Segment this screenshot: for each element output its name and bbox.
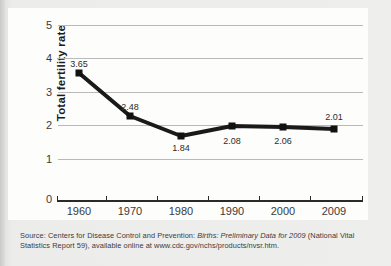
data-label-2000: 2.06 [263, 136, 303, 146]
x-tick-1960: 1960 [56, 205, 102, 217]
x-tick-1990: 1990 [209, 205, 255, 217]
data-point-1990 [229, 123, 236, 130]
x-tickmark-4 [259, 196, 260, 201]
x-tick-1980: 1980 [158, 205, 204, 217]
page-left-edge [0, 0, 5, 266]
data-label-1990: 2.08 [212, 136, 252, 146]
caption-line1-prefix: Source: Centers for Disease Control and … [20, 231, 197, 240]
x-tick-2009: 2009 [311, 205, 357, 217]
data-point-1970 [127, 113, 134, 120]
data-point-1980 [178, 133, 185, 140]
data-label-1960: 3.65 [59, 59, 99, 69]
chart-panel: Total fertility rate 5 4 3 2 1 0 3.65 2.… [8, 8, 368, 220]
data-label-1980: 1.84 [161, 143, 201, 153]
source-caption: Source: Centers for Disease Control and … [20, 231, 372, 252]
caption-line2: Report 59), available online at www.cdc.… [52, 241, 279, 250]
x-tickmark-3 [208, 196, 209, 201]
data-label-2009: 2.01 [314, 112, 354, 122]
x-tick-2000: 2000 [260, 205, 306, 217]
page-background: Total fertility rate 5 4 3 2 1 0 3.65 2.… [0, 0, 391, 266]
x-axis-line [57, 200, 363, 202]
x-tick-1970: 1970 [107, 205, 153, 217]
data-point-1960 [76, 70, 83, 77]
x-tickmark-2 [157, 196, 158, 201]
x-tickmark-0 [57, 196, 58, 201]
data-point-2000 [280, 124, 287, 131]
x-tickmark-5 [310, 196, 311, 201]
caption-line1-title: Births: Preliminary Data for 2009 [197, 231, 305, 240]
x-tickmark-6 [362, 196, 363, 201]
x-tickmark-1 [106, 196, 107, 201]
data-point-2009 [331, 126, 338, 133]
data-label-1970: 2.48 [110, 102, 150, 112]
